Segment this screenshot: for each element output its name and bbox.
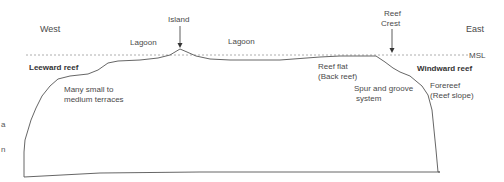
island-label: Island	[168, 15, 189, 25]
reef-crest-arrowhead	[390, 48, 395, 53]
island-arrowhead	[178, 43, 183, 48]
spur-groove-label-line1: Spur and groove	[354, 84, 413, 94]
leeward-reef-label: Leeward reef	[29, 63, 78, 73]
windward-reef-label: Windward reef	[417, 64, 472, 74]
forereef-label-line2: (Reef slope)	[430, 91, 474, 101]
terraces-label-line1: Many small to	[64, 85, 113, 95]
reef-profile-line	[24, 49, 440, 177]
lagoon-right-label: Lagoon	[228, 37, 255, 47]
reef-crest-label-line1: Reef	[384, 9, 401, 19]
msl-label: MSL	[469, 51, 485, 61]
clipped-edge-glyph: a	[1, 120, 5, 129]
clipped-edge-glyph: n	[1, 145, 5, 154]
forereef-label-line1: Forereef	[430, 81, 460, 91]
reef-flat-label-line1: Reef flat	[318, 62, 348, 72]
east-label: East	[466, 24, 484, 34]
west-label: West	[40, 24, 60, 34]
lagoon-left-label: Lagoon	[130, 38, 157, 48]
reef-crest-label-line2: Crest	[381, 19, 400, 29]
terraces-label-line2: medium terraces	[64, 95, 124, 105]
reef-flat-label-line2: (Back reef)	[318, 72, 357, 82]
spur-groove-label-line2: system	[356, 94, 381, 104]
